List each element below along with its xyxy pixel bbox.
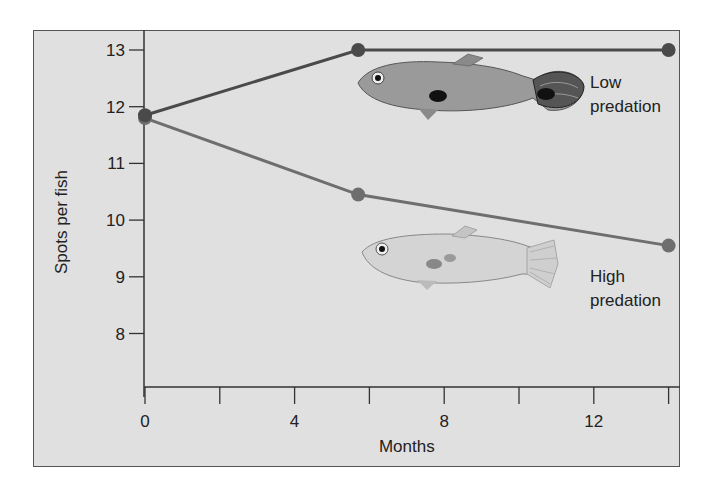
line-chart: 891011121304812MonthsSpots per fish Lowp… [0,0,714,497]
x-tick-label: 0 [140,412,149,431]
series-labels: LowpredationHighpredation [590,73,661,310]
data-point [351,43,365,57]
y-tick-label: 12 [106,98,125,117]
x-axis-title: Months [379,437,435,456]
data-point [138,108,152,122]
x-tick-label: 12 [584,412,603,431]
y-axis-title: Spots per fish [52,170,71,274]
x-tick-label: 4 [290,412,299,431]
series-label: Low [590,73,622,92]
y-tick-label: 13 [106,41,125,60]
series-label: predation [590,97,661,116]
series-label: predation [590,291,661,310]
x-tick-label: 8 [439,412,448,431]
y-tick-label: 8 [116,325,125,344]
series-line-high-predation [145,118,669,246]
y-tick-label: 11 [107,154,125,173]
axes: 891011121304812MonthsSpots per fish [52,30,680,456]
data-point [662,43,676,57]
low-predation-fish-illustration [358,54,584,120]
series-label: High [590,267,625,286]
high-predation-fish-illustration [362,226,558,290]
data-point [662,239,676,253]
y-tick-label: 10 [106,211,125,230]
y-tick-label: 9 [116,268,125,287]
data-point [351,188,365,202]
